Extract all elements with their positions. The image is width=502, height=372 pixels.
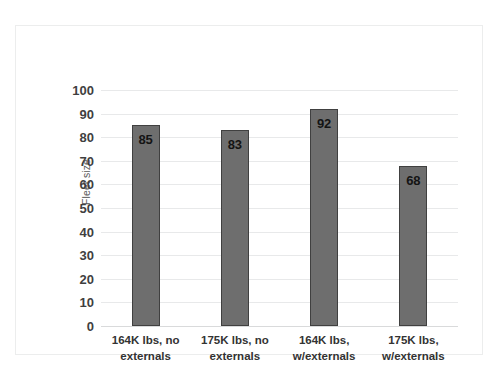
x-axis-tick-label: 175K lbs, w/externals [365,333,461,364]
y-axis-tick-label: 50 [80,202,94,215]
bar-value-label: 92 [311,117,337,130]
bar-group: 85164K lbs, no externals [101,90,190,326]
bar[interactable]: 83 [221,130,249,326]
x-axis-tick-label: 164K lbs, w/externals [276,333,372,364]
bar[interactable]: 68 [399,166,427,326]
bar-value-label: 68 [400,174,426,187]
bar-value-label: 85 [133,133,159,146]
y-axis-tick-label: 100 [72,84,94,97]
bar[interactable]: 92 [310,109,338,326]
y-axis-tick-label: 30 [80,249,94,262]
x-axis-tick-label: 175K lbs, no externals [187,333,283,364]
y-axis-tick-label: 70 [80,154,94,167]
y-axis-tick-label: 40 [80,225,94,238]
bar-group: 92164K lbs, w/externals [280,90,369,326]
chart-frame: Fleet size 100908070605040302010085164K … [15,25,483,355]
bar-value-label: 83 [222,138,248,151]
bar[interactable]: 85 [132,125,160,326]
gridline [101,326,458,327]
bar-group: 83175K lbs, no externals [190,90,279,326]
x-axis-tick-label: 164K lbs, no externals [98,333,194,364]
bar-group: 68175K lbs, w/externals [369,90,458,326]
y-axis-tick-label: 20 [80,272,94,285]
y-axis-tick-label: 0 [87,320,94,333]
y-axis-tick-label: 60 [80,178,94,191]
y-axis-tick-label: 10 [80,296,94,309]
y-axis-tick-label: 90 [80,107,94,120]
y-axis-tick-label: 80 [80,131,94,144]
plot-area: 100908070605040302010085164K lbs, no ext… [101,90,458,326]
